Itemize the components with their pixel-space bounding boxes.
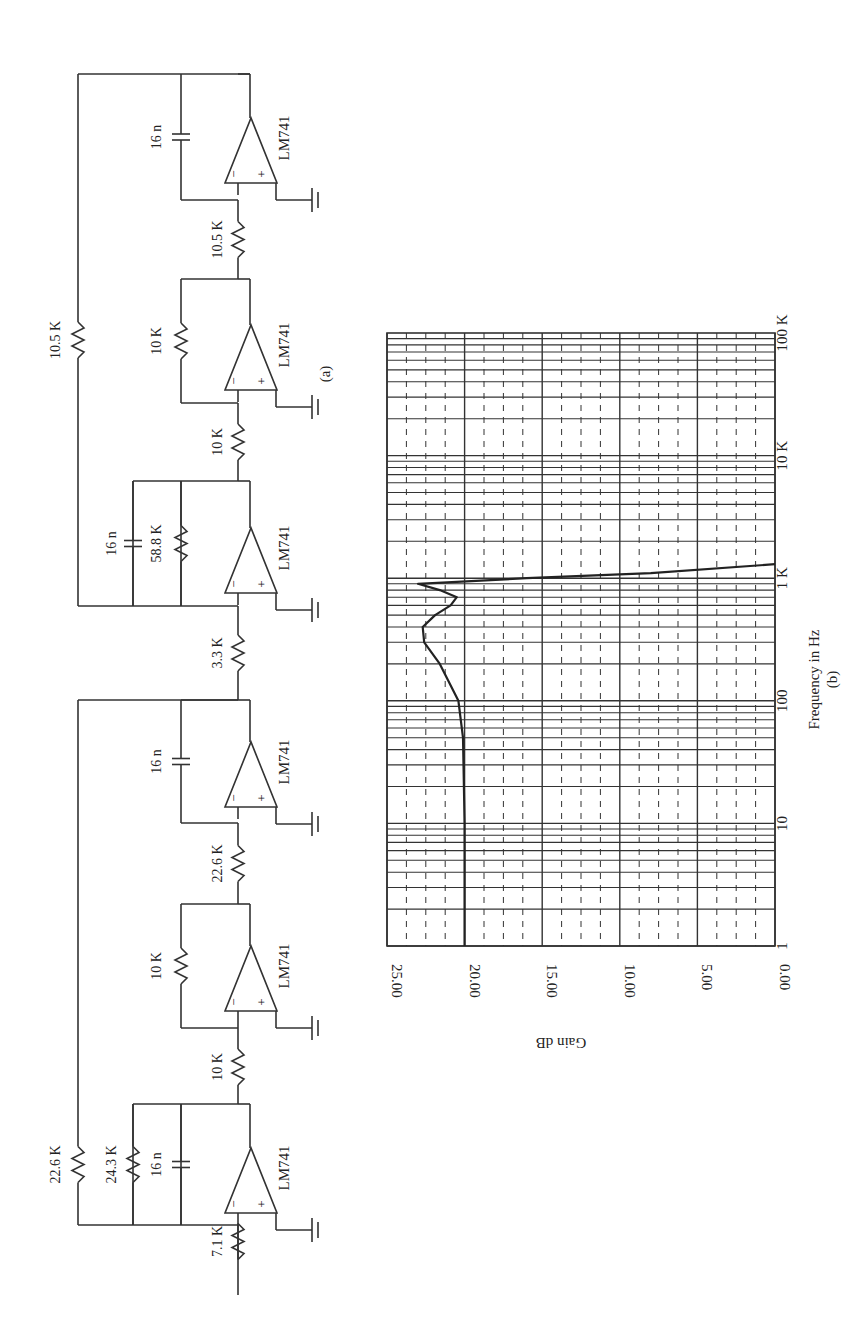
opamp-plus: + bbox=[254, 1200, 269, 1207]
opamp-plus: + bbox=[254, 998, 269, 1005]
y-axis-label: Gain dB bbox=[536, 1035, 586, 1051]
x-tick-label: 1 bbox=[774, 942, 790, 950]
resistor-icon bbox=[72, 1147, 84, 1183]
resistor-label: 22.6 K bbox=[210, 844, 225, 882]
opamp-minus: − bbox=[226, 170, 241, 177]
x-tick-label: 1 K bbox=[774, 567, 790, 589]
opamp-minus: − bbox=[226, 377, 241, 384]
resistor-label: 10 K bbox=[210, 428, 225, 456]
opamp-plus: + bbox=[254, 377, 269, 384]
resistor-label: 10.5 K bbox=[210, 220, 225, 258]
resistor-label: 22.6 K bbox=[48, 1145, 63, 1183]
resistor-label: 10 K bbox=[210, 1053, 225, 1081]
resistor-label: 24.3 K bbox=[104, 1145, 119, 1183]
opamp-minus: − bbox=[226, 998, 241, 1005]
y-tick-label: 25.00 bbox=[389, 964, 405, 998]
y-tick-label: 20.00 bbox=[467, 964, 483, 998]
gain-frequency-chart: 0.005.0010.0015.0020.0025.001101001 K10 … bbox=[387, 314, 841, 1051]
resistor-icon bbox=[175, 948, 187, 984]
resistor-icon bbox=[72, 322, 84, 358]
opamp-label: LM741 bbox=[276, 526, 292, 571]
resistor-icon bbox=[175, 323, 187, 359]
filter-circuit-schematic: −+LM741−+LM741−+LM741−+LM741−+LM741−+LM7… bbox=[48, 74, 318, 1295]
x-tick-label: 100 K bbox=[774, 314, 790, 351]
resistor-label: 7.1 K bbox=[210, 1226, 225, 1257]
opamp-label: LM741 bbox=[276, 323, 292, 368]
resistor-icon bbox=[232, 1049, 244, 1085]
opamp-plus: + bbox=[254, 794, 269, 801]
y-tick-label: 5.00 bbox=[699, 964, 715, 990]
opamp-minus: − bbox=[226, 1200, 241, 1207]
chart-caption: (b) bbox=[824, 671, 841, 689]
resistor-icon bbox=[232, 635, 244, 671]
resistor-label: 10 K bbox=[149, 952, 164, 980]
capacitor-label: 16 n bbox=[104, 531, 119, 556]
resistor-icon bbox=[232, 424, 244, 460]
capacitor-label: 16 n bbox=[149, 125, 164, 150]
resistor-label: 10.5 K bbox=[48, 321, 63, 359]
y-tick-label: 0.00 bbox=[777, 964, 793, 990]
resistor-label: 58.8 K bbox=[149, 524, 164, 562]
caption-a: (a) bbox=[317, 366, 334, 383]
opamp-label: LM741 bbox=[276, 944, 292, 989]
y-tick-label: 15.00 bbox=[544, 964, 560, 998]
opamp-label: LM741 bbox=[276, 740, 292, 785]
x-tick-label: 10 bbox=[774, 816, 790, 831]
opamp-label: LM741 bbox=[276, 1146, 292, 1191]
capacitor-label: 16 n bbox=[149, 1152, 164, 1177]
resistor-label: 3.3 K bbox=[210, 637, 225, 668]
figure-canvas: −+LM741−+LM741−+LM741−+LM741−+LM741−+LM7… bbox=[0, 0, 860, 1330]
opamp-minus: − bbox=[226, 794, 241, 801]
resistor-label: 10 K bbox=[149, 327, 164, 355]
opamp-minus: − bbox=[226, 580, 241, 587]
opamp-plus: + bbox=[254, 580, 269, 587]
opamp-plus: + bbox=[254, 170, 269, 177]
x-tick-label: 100 bbox=[774, 690, 790, 713]
x-tick-label: 10 K bbox=[774, 441, 790, 471]
resistor-icon bbox=[232, 222, 244, 258]
capacitor-label: 16 n bbox=[149, 749, 164, 774]
resistor-icon bbox=[232, 846, 244, 882]
y-tick-label: 10.00 bbox=[622, 964, 638, 998]
opamp-label: LM741 bbox=[276, 116, 292, 161]
gain-curve bbox=[418, 564, 775, 946]
x-axis-label: Frequency in Hz bbox=[806, 629, 822, 729]
